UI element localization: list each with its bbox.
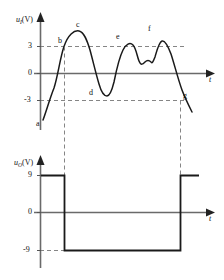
output-panel: uO(V) [14, 155, 215, 268]
input-point-label-d: d [89, 89, 93, 97]
output-y-axis-arrow [37, 155, 45, 165]
input-point-label-b: b [58, 37, 62, 45]
waveform-figure: uI(V) uO(V) [0, 0, 224, 280]
input-y-axis-arrow [37, 12, 45, 22]
input-panel: uI(V) [16, 12, 215, 130]
output-ytick-label-9: 9 [28, 171, 32, 179]
input-point-label-a: a [36, 120, 40, 128]
input-ytick-label-0: 0 [28, 69, 32, 77]
input-y-axis-label: uI(V) [16, 15, 33, 25]
input-y-axis-label-unit: (V) [22, 15, 33, 24]
input-x-axis-label: t [209, 76, 211, 84]
input-point-label-e: e [116, 33, 120, 41]
input-point-label-f: f [148, 25, 151, 33]
input-point-label-g: g [183, 92, 187, 100]
input-point-label-c: c [76, 21, 80, 29]
output-ytick-label-minus9: -9 [23, 246, 30, 254]
output-x-axis-label: t [209, 215, 211, 223]
output-y-axis-label-unit: (V) [22, 158, 33, 167]
output-ytick-label-0: 0 [28, 208, 32, 216]
output-y-axis-label: uO(V) [14, 158, 33, 168]
input-waveform-curve [43, 31, 192, 120]
input-ytick-label-3: 3 [28, 42, 32, 50]
input-ytick-label-minus3: -3 [24, 96, 31, 104]
